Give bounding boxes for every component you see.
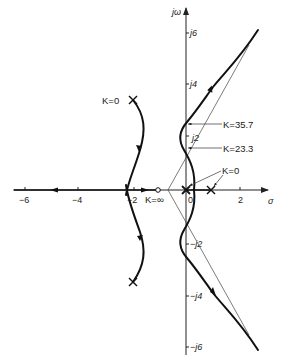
direction-arrow: [50, 188, 58, 193]
k-label-zero: K=∞: [145, 194, 164, 205]
k-label-23-3: K=23.3: [223, 143, 253, 154]
imaginary-axis-label: jω: [171, 7, 181, 17]
tick-label-j4: j4: [189, 79, 197, 89]
direction-arrow: [141, 188, 149, 193]
tick-label-0: 0: [188, 195, 193, 205]
locus-branch-right-upper: [180, 30, 258, 190]
tick-label-2: 2: [238, 195, 243, 205]
k-label-35-7: K=35.7: [223, 119, 253, 130]
asymptote-lower: [168, 190, 249, 335]
tick-label-m4: −4: [72, 195, 82, 205]
tick-label-mj6: −j6: [190, 342, 202, 352]
zero-marker: [156, 188, 161, 193]
tick-label-j6: j6: [189, 28, 197, 38]
locus-branch-right-lower: [180, 190, 258, 350]
leader-k0-pole1: [214, 175, 223, 186]
real-axis-label: σ: [268, 196, 274, 206]
tick-label-m6: −6: [19, 195, 29, 205]
pole-marker: [129, 96, 137, 104]
k-label-pole-right: K=0: [222, 165, 239, 176]
direction-arrow: [210, 287, 216, 296]
tick-label-mj4: −j4: [190, 291, 202, 301]
root-locus-diagram: σ jω −6 −4 −2 0 2 j6 j4 j2 −j2 −j4 −j6: [0, 0, 291, 360]
k-label-pole-left: K=0: [102, 95, 119, 106]
pole-marker: [129, 278, 137, 286]
